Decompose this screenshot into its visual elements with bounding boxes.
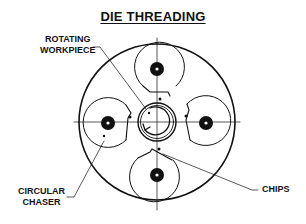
leader-chaser	[67, 141, 104, 197]
chips	[103, 98, 188, 151]
leader-chips	[163, 154, 258, 190]
die-threading-diagram	[0, 0, 306, 224]
